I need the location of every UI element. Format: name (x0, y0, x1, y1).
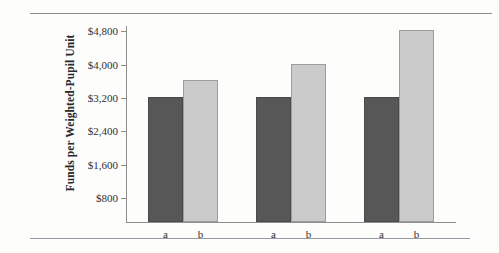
x-tick-label-group3-b: b (414, 228, 420, 240)
bar-group1-b (183, 80, 218, 222)
y-tick-label: $800 (96, 192, 118, 204)
y-axis-title: Funds per Weighted-Pupil Unit (62, 8, 78, 218)
x-tick-label-group2-b: b (306, 228, 312, 240)
top-divider-rule (30, 13, 492, 14)
bar-group1-a (148, 97, 183, 222)
x-tick-label-group1-a: a (163, 228, 168, 240)
x-tick-label-group3-a: a (379, 228, 384, 240)
bar-series-layer (126, 22, 456, 222)
y-tick-label: $4,800 (88, 25, 118, 37)
bar-chart-figure: Funds per Weighted-Pupil Unit $800$1,600… (0, 0, 499, 253)
x-axis-line (126, 222, 456, 223)
bar-group3-b (399, 30, 434, 222)
bar-group2-b (291, 64, 326, 222)
y-tick-label: $2,400 (88, 125, 118, 137)
bar-group2-a (256, 97, 291, 222)
x-tick-label-group2-a: a (271, 228, 276, 240)
plot-area: $800$1,600$2,400$3,200$4,000$4,800 (126, 22, 456, 223)
bottom-divider-rule (30, 238, 470, 239)
bar-group3-a (364, 97, 399, 222)
x-tick-label-group1-b: b (198, 228, 204, 240)
y-tick-label: $1,600 (88, 159, 118, 171)
y-tick-label: $3,200 (88, 92, 118, 104)
y-tick-label: $4,000 (88, 59, 118, 71)
